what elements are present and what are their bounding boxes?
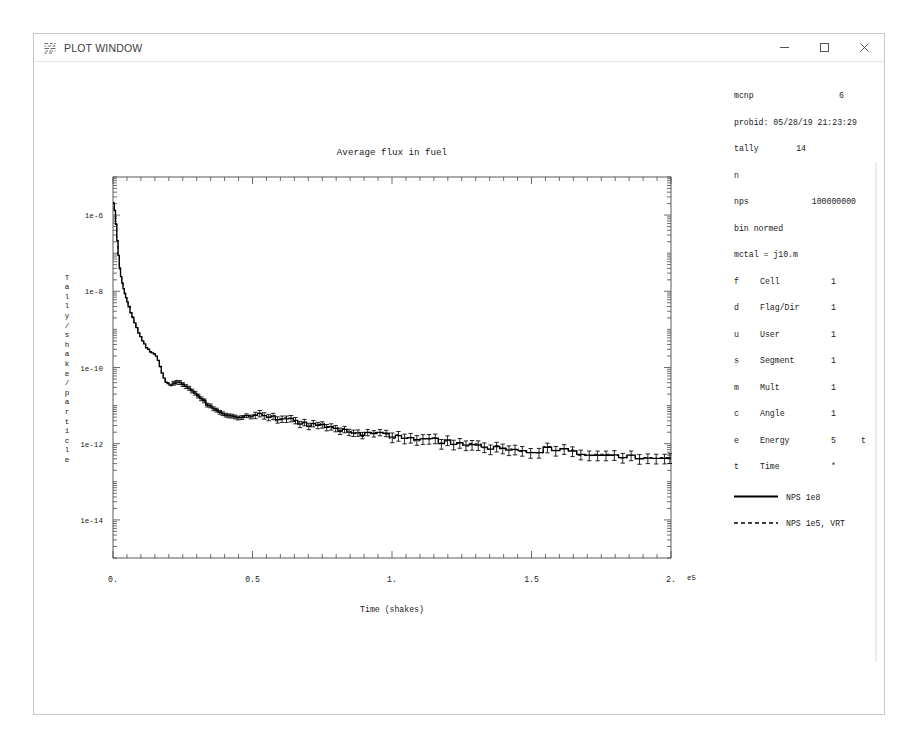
y-axis-label-char: l xyxy=(65,446,70,454)
bin-key-c: c xyxy=(734,409,739,418)
info-tally-label: tally xyxy=(734,144,759,153)
y-axis-label-char: s xyxy=(65,331,70,339)
bin-name-e: Energy xyxy=(760,436,790,445)
x-tick-label: 1. xyxy=(387,575,397,584)
series-nps-1e8 xyxy=(113,203,671,458)
plot-window: PLOT WINDOW Average flux in fuel0.0.51.1… xyxy=(33,33,885,715)
x-tick-label: 0.5 xyxy=(245,575,260,584)
bin-value-m: 1 xyxy=(831,383,836,392)
y-tick-label: 1e-14 xyxy=(80,517,103,525)
legend-label-0: NPS 1e8 xyxy=(786,493,820,502)
info-code-label: mcnp xyxy=(734,91,754,100)
error-bars xyxy=(171,380,672,464)
bin-name-c: Angle xyxy=(760,409,785,418)
bin-value-u: 1 xyxy=(831,330,836,339)
bin-name-t: Time xyxy=(760,462,780,471)
info-normalization: bin normed xyxy=(734,224,783,233)
y-axis-label-char: c xyxy=(65,437,70,445)
y-axis-label-char: a xyxy=(65,350,70,358)
x-tick-label: 2. xyxy=(666,575,676,584)
y-axis-label-char: / xyxy=(65,379,70,387)
y-axis-label-char: p xyxy=(65,389,70,397)
window-controls xyxy=(764,34,884,61)
y-axis-label-char: e xyxy=(65,456,70,464)
info-code-version: 6 xyxy=(839,91,844,100)
chart-title: Average flux in fuel xyxy=(337,147,447,158)
y-axis-label-char: a xyxy=(65,398,70,406)
legend-label-1: NPS 1e5, VRT xyxy=(786,519,845,528)
y-axis-label-char: h xyxy=(65,341,70,349)
x-tick-label: 1.5 xyxy=(524,575,539,584)
bin-key-d: d xyxy=(734,303,739,312)
legend-entry-1: NPS 1e5, VRT xyxy=(734,519,845,528)
y-tick-label: 1e-8 xyxy=(85,288,104,296)
y-axis-label-char: l xyxy=(65,293,70,301)
minimize-icon[interactable] xyxy=(764,34,804,61)
bin-key-f: f xyxy=(734,277,739,286)
series-nps-1e5-vrt xyxy=(113,202,671,458)
bin-name-s: Segment xyxy=(760,356,794,365)
info-particle: n xyxy=(734,171,739,180)
window-title: PLOT WINDOW xyxy=(64,42,142,54)
bin-key-m: m xyxy=(734,383,739,392)
y-axis-label-char: r xyxy=(65,408,70,416)
bin-name-f: Cell xyxy=(760,277,780,286)
y-axis-label-char: i xyxy=(65,427,70,435)
y-axis-label-char: / xyxy=(65,322,70,330)
y-tick-label: 1e-6 xyxy=(85,212,104,220)
y-axis-label-char: t xyxy=(65,418,70,426)
bin-flag-e: t xyxy=(861,436,866,445)
bin-value-t: * xyxy=(831,462,836,471)
x-axis-exponent: e5 xyxy=(687,574,696,582)
y-axis-label-char: l xyxy=(65,302,70,310)
bin-key-e: e xyxy=(734,436,739,445)
info-nps-value: 100000000 xyxy=(812,197,856,206)
bin-value-s: 1 xyxy=(831,356,836,365)
info-mctal: mctal = j10.m xyxy=(734,250,798,259)
info-nps-label: nps xyxy=(734,197,749,206)
y-axis-label-char: k xyxy=(65,360,70,368)
bin-value-e: 5 xyxy=(831,436,836,445)
bin-name-m: Mult xyxy=(760,383,780,392)
close-icon[interactable] xyxy=(844,34,884,61)
plot-canvas: Average flux in fuel0.0.51.1.52.e5Time (… xyxy=(34,62,884,714)
x-axis-label: Time (shakes) xyxy=(360,605,424,614)
y-axis-label-char: e xyxy=(65,370,70,378)
x-tick-label: 0. xyxy=(108,575,118,584)
bin-name-d: Flag/Dir xyxy=(760,303,799,312)
mcnp-tally-plot: Average flux in fuel0.0.51.1.52.e5Time (… xyxy=(34,62,884,714)
legend-entry-0: NPS 1e8 xyxy=(734,493,820,502)
y-tick-label: 1e-10 xyxy=(80,365,103,373)
y-axis-label-char: y xyxy=(65,312,70,320)
axes-frame xyxy=(113,177,671,558)
info-probid: probid: 05/28/19 21:23:29 xyxy=(734,118,857,127)
y-tick-label: 1e-12 xyxy=(80,441,103,449)
y-axis-label-char: a xyxy=(65,283,70,291)
bin-name-u: User xyxy=(760,330,780,339)
bin-key-t: t xyxy=(734,462,739,471)
info-tally-number: 14 xyxy=(796,144,806,153)
mcnp-plot-icon xyxy=(43,41,57,55)
bin-key-u: u xyxy=(734,330,739,339)
y-axis-ticks xyxy=(113,177,671,558)
bin-value-d: 1 xyxy=(831,303,836,312)
title-bar: PLOT WINDOW xyxy=(34,34,884,62)
bin-key-s: s xyxy=(734,356,739,365)
y-axis-label-char: T xyxy=(65,274,70,282)
bin-value-c: 1 xyxy=(831,409,836,418)
bin-value-f: 1 xyxy=(831,277,836,286)
x-axis-ticks xyxy=(113,177,671,558)
maximize-icon[interactable] xyxy=(804,34,844,61)
